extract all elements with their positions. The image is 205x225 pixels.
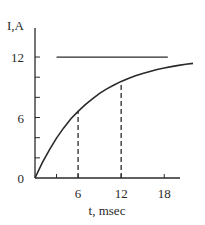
chart-canvas: 61218 0612 I,A t, msec (0, 0, 205, 225)
x-axis-label: t, msec (89, 203, 126, 218)
x-tick-label: 12 (115, 186, 128, 201)
y-tick-label: 6 (18, 111, 25, 126)
x-tick-label: 18 (158, 186, 171, 201)
y-tick-label: 12 (11, 50, 24, 65)
y-axis-label: I,A (7, 18, 25, 33)
x-tick-label: 6 (75, 186, 82, 201)
y-ticks: 0612 (11, 50, 40, 186)
current-curve (35, 63, 193, 178)
y-tick-label: 0 (18, 171, 25, 186)
